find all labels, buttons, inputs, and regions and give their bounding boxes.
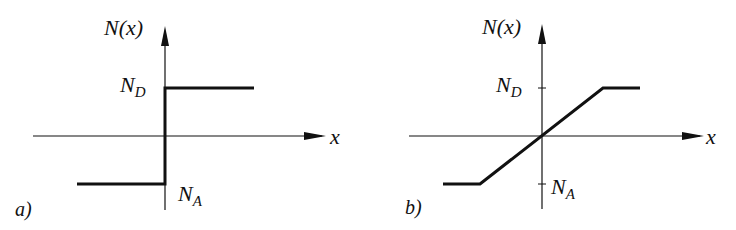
figure: N(x) x ND NA a) N(x) x ND NA b) [0,0,736,230]
x-axis-label-b: x [705,124,716,149]
panel-b: N(x) x ND NA b) [405,14,716,219]
panel-label-b: b) [405,196,422,219]
nd-label-a: ND [119,72,146,100]
na-label-a: NA [177,181,203,209]
panel-a: N(x) x ND NA a) [15,15,340,221]
na-label-b: NA [550,174,576,202]
panel-label-a: a) [15,198,32,221]
y-axis-label-a: N(x) [103,15,143,40]
y-axis-label-b: N(x) [481,14,521,39]
x-axis-arrow-b [682,132,704,140]
nd-label-b: ND [495,72,522,100]
y-axis-arrow-b [538,24,546,44]
y-axis-arrow-a [161,26,169,46]
x-axis-arrow-a [304,132,326,140]
x-axis-label-a: x [329,124,340,149]
